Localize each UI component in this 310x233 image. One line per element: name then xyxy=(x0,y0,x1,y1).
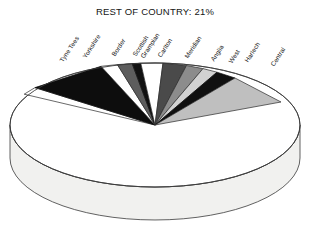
pie-chart-figure: REST OF COUNTRY: 21% Tyne Tees Yorkshire… xyxy=(0,0,310,233)
